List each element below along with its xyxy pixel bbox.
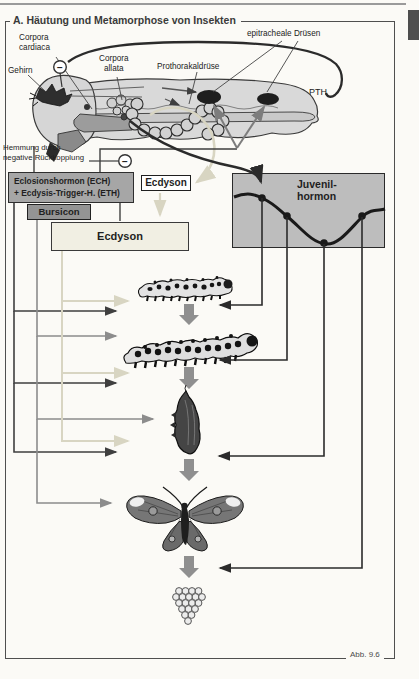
juvenilhormon-stage-arrows [219, 198, 362, 568]
figure-page: A. Häutung und Metamorphose von Insekten… [0, 0, 419, 679]
svg-text:−: − [57, 62, 63, 73]
figure-title: A. Häutung und Metamorphose von Insekten [10, 14, 241, 26]
ech-arrow [162, 88, 196, 92]
allata-to-juvenil-arrow [130, 121, 261, 182]
brain-axon-lines [70, 87, 144, 97]
negative-feedback-minus-icon-brain: − [54, 61, 67, 87]
connector-layer: − − [0, 0, 419, 679]
ptth-arrow [165, 99, 179, 105]
negative-feedback-minus-icon-pathway: − [89, 155, 131, 168]
eclosion-pathway-arrows [14, 203, 116, 452]
figure-caption: Abb. 9.6 [346, 650, 384, 659]
ecdyson-pathway-arrows [62, 251, 128, 441]
anatomy-pointer-lines [28, 41, 298, 109]
svg-text:−: − [122, 156, 128, 167]
bursicon-pathway-arrows [37, 220, 153, 503]
